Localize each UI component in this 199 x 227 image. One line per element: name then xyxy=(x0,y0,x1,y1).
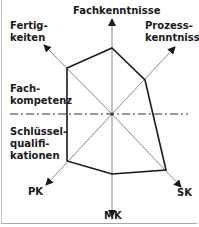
label-fachkenntnisse: Fachkenntnisse xyxy=(73,5,160,17)
label-fertigkeiten: Fertig- keiten xyxy=(10,20,48,44)
label-prozesskenntnisse: Prozess- kenntnisse xyxy=(145,20,199,44)
axis-sk xyxy=(112,114,181,187)
label-mk: MK xyxy=(104,210,122,222)
label-sk: SK xyxy=(177,187,192,199)
center-point xyxy=(110,112,113,115)
label-fachkompetenz: Fach- kompetenz xyxy=(10,83,72,107)
label-schluesselqualifikationen: Schlüssel- qualifi- kationen xyxy=(10,126,67,162)
label-pk: PK xyxy=(28,186,43,198)
